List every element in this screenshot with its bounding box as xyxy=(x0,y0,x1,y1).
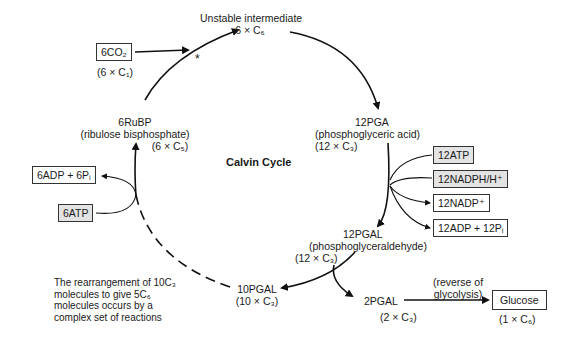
asterisk: * xyxy=(195,53,200,65)
pgal-desc: (phosphoglyceraldehyde) xyxy=(295,240,427,252)
nadp-box: 12NADP⁺ xyxy=(433,194,490,212)
unstable-formula: 6 × C₆ xyxy=(200,24,300,36)
pgal10-name: 10PGAL xyxy=(232,283,282,295)
pgal2-name: 2PGAL xyxy=(364,295,398,307)
reverse-line-2: glycolysis) xyxy=(418,288,498,300)
atp6-box: 6ATP xyxy=(58,204,93,222)
pgal10-node: 10PGAL (10 × C₃) xyxy=(232,283,282,307)
unstable-intermediate: Unstable intermediate 6 × C₆ xyxy=(200,12,300,36)
adp12-box: 12ADP + 12Pᵢ xyxy=(433,219,508,237)
note-line-4: complex set of reactions xyxy=(54,312,176,324)
rubp-node: 6RuBP (ribulose bisphosphate) (6 × C₅) xyxy=(70,116,200,152)
reverse-line-1: (reverse of xyxy=(418,276,498,288)
pgal2-formula: (2 × C₃) xyxy=(380,311,417,323)
pgal-name: 12PGAL xyxy=(295,228,427,240)
co2-label: 6CO₂ xyxy=(101,46,127,58)
pgal10-formula: (10 × C₃) xyxy=(232,295,282,307)
pgal-node: 12PGAL (phosphoglyceraldehyde) (12 × C₃) xyxy=(295,228,427,264)
rearrangement-note: The rearrangement of 10C₃ molecules to g… xyxy=(54,277,176,323)
pga-name: 12PGA xyxy=(315,116,455,128)
cycle-title: Calvin Cycle xyxy=(226,156,291,168)
note-line-3: molecules occurs by a xyxy=(54,300,176,312)
note-line-2: molecules to give 5C₆ xyxy=(54,289,176,301)
co2-formula: (6 × C₁) xyxy=(97,66,133,78)
rubp-name: 6RuBP xyxy=(70,116,200,128)
pgal-formula: (12 × C₃) xyxy=(295,252,427,264)
glucose-box: Glucose xyxy=(492,290,547,310)
co2-box: 6CO₂ xyxy=(96,43,132,61)
rubp-formula: (6 × C₅) xyxy=(70,140,200,152)
unstable-name: Unstable intermediate xyxy=(200,12,300,24)
pga-desc: (phosphoglyceric acid) xyxy=(315,128,455,140)
atp12-box: 12ATP xyxy=(433,146,474,164)
adp6-box: 6ADP + 6Pᵢ xyxy=(32,166,96,184)
nadph-box: 12NADPH/H⁺ xyxy=(433,170,508,188)
note-line-1: The rearrangement of 10C₃ xyxy=(54,277,176,289)
rubp-desc: (ribulose bisphosphate) xyxy=(70,128,200,140)
glucose-formula: (1 × C₆) xyxy=(499,313,536,325)
reverse-glycolysis-note: (reverse of glycolysis) xyxy=(418,276,498,300)
